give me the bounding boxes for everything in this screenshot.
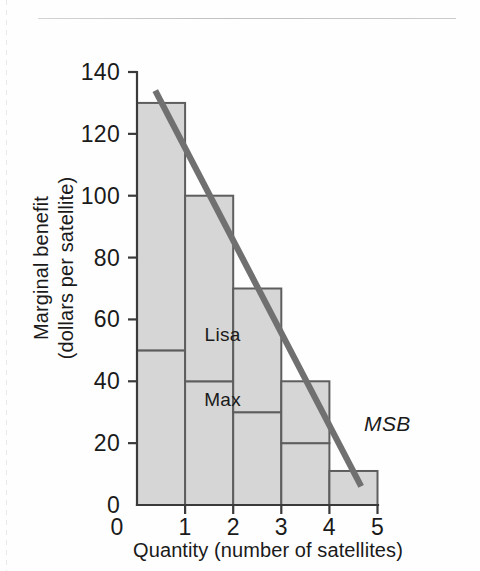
series-label-max: Max [204,389,241,410]
x-tick-label-5: 5 [371,514,384,540]
y-tick-label-120: 120 [81,121,120,147]
bar-segment-max-1 [137,350,185,505]
chart-figure: 020406080100120140 012345 Marginal benef… [0,0,480,571]
msb-curve-label: MSB [364,412,411,435]
marginal-benefit-bar-chart: 020406080100120140 012345 Marginal benef… [0,0,480,571]
x-tick-label-1: 1 [179,514,192,540]
y-tick-label-80: 80 [94,245,120,271]
y-tick-label-100: 100 [81,183,120,209]
series-label-lisa: Lisa [205,324,241,345]
y-tick-label-140: 140 [81,59,120,85]
x-tick-label-2: 2 [227,514,240,540]
x-tick-label-4: 4 [323,514,336,540]
y-axis-tick-labels: 020406080100120140 [81,59,120,518]
bar-segment-max-4 [281,443,329,505]
y-tick-label-20: 20 [94,430,120,456]
y-axis-title-line1: Marginal benefit [30,196,52,340]
x-tick-label-3: 3 [275,514,288,540]
x-tick-label-0: 0 [110,514,123,540]
y-tick-label-40: 40 [94,368,120,394]
y-tick-label-60: 60 [94,306,120,332]
y-axis-ticks [128,72,137,443]
x-axis-tick-labels: 012345 [110,514,384,540]
y-axis-title-line2: (dollars per satellite) [55,177,77,359]
x-axis-title: Quantity (number of satellites) [133,539,403,561]
x-axis-ticks [185,505,377,514]
bar-segment-max-3 [233,412,281,505]
